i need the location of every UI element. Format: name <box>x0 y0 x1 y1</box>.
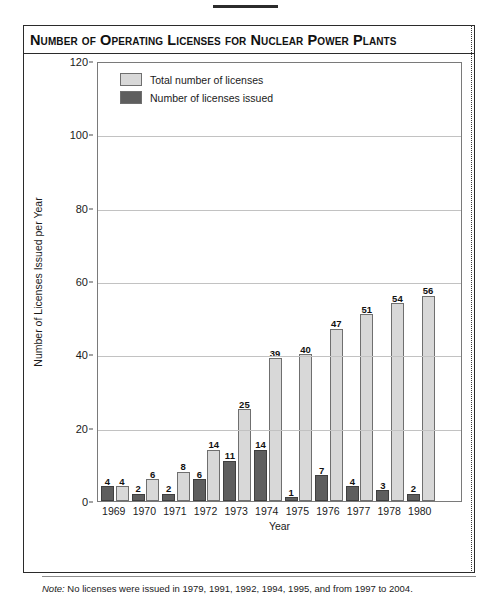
bar-issued: 6 <box>193 479 206 501</box>
legend-swatch-issued <box>120 91 142 104</box>
bar-issued: 3 <box>376 490 389 501</box>
x-axis-tick: 1971 <box>163 505 186 517</box>
gridline <box>98 356 461 357</box>
x-axis-tick: 1980 <box>408 505 431 517</box>
bar-group: 747 <box>315 63 346 501</box>
bar-issued: 11 <box>223 461 236 501</box>
legend-label-total: Total number of licenses <box>150 74 263 86</box>
bar-value-label: 8 <box>181 462 186 472</box>
legend-label-issued: Number of licenses issued <box>150 92 273 104</box>
bar-issued: 4 <box>101 486 114 501</box>
y-axis-tick-mark <box>89 428 93 429</box>
y-axis-tick: 60 <box>76 276 88 288</box>
x-axis-tick: 1974 <box>255 505 278 517</box>
x-axis-tick: 1976 <box>316 505 339 517</box>
chart-legend: Total number of licenses Number of licen… <box>120 73 273 109</box>
bar-issued: 1 <box>285 497 298 501</box>
x-axis-tick: 1973 <box>224 505 247 517</box>
title-band: Number of Operating Licenses for Nuclear… <box>24 26 474 54</box>
bar-group: 256 <box>407 63 438 501</box>
bar-total: 4 <box>116 486 129 501</box>
bar-value-label: 14 <box>209 440 220 450</box>
x-axis-tick-labels: 1969197019711972197319741975197619771978… <box>97 503 462 519</box>
y-axis-tick: 40 <box>76 349 88 361</box>
bar-value-label: 51 <box>362 305 373 315</box>
bar-value-label: 2 <box>411 484 416 494</box>
bar-value-label: 11 <box>225 451 235 461</box>
y-axis-tick: 0 <box>82 496 88 508</box>
bar-value-label: 25 <box>239 400 250 410</box>
bars-layer: 44262861411251439140747451354256 <box>98 63 461 501</box>
bar-value-label: 56 <box>423 286 434 296</box>
bar-total: 47 <box>330 329 343 501</box>
bar-value-label: 40 <box>300 345 311 355</box>
x-axis-tick: 1969 <box>102 505 125 517</box>
gridline <box>98 283 461 284</box>
bar-value-label: 4 <box>105 477 110 487</box>
footnote: Note: No licenses were issued in 1979, 1… <box>42 583 476 595</box>
bar-issued: 2 <box>407 494 420 501</box>
y-axis-title-text: Number of Licenses Issued per Year <box>32 197 44 366</box>
bar-group: 451 <box>346 63 377 501</box>
y-axis-tick-mark <box>89 502 93 503</box>
bar-group: 354 <box>376 63 407 501</box>
y-axis-tick: 120 <box>70 56 88 68</box>
x-axis-tick: 1975 <box>286 505 309 517</box>
footnote-text: No licenses were issued in 1979, 1991, 1… <box>65 583 413 594</box>
bar-value-label: 2 <box>135 484 140 494</box>
chart-card: Number of Licenses Issued per Year 02040… <box>33 62 467 532</box>
bar-issued: 14 <box>254 450 267 501</box>
page-title: Number of Operating Licenses for Nuclear… <box>24 32 397 48</box>
y-axis-tick-mark <box>89 135 93 136</box>
scan-edge-artifact <box>471 25 472 573</box>
y-axis-tick-mark <box>89 62 93 63</box>
plot-area: 44262861411251439140747451354256 Total n… <box>97 62 462 502</box>
scan-artifact-rule <box>213 5 278 8</box>
bar-value-label: 6 <box>197 470 202 480</box>
gridline <box>98 430 461 431</box>
bar-total: 40 <box>299 354 312 501</box>
bar-issued: 2 <box>132 494 145 501</box>
bar-value-label: 1 <box>288 488 293 498</box>
y-axis-title: Number of Licenses Issued per Year <box>29 62 47 502</box>
y-axis-tick: 100 <box>70 129 88 141</box>
bar-value-label: 7 <box>319 466 324 476</box>
y-axis-tick-mark <box>89 282 93 283</box>
bar-value-label: 14 <box>255 440 266 450</box>
bar-group: 26 <box>132 63 163 501</box>
bar-total: 8 <box>177 472 190 501</box>
bar-group: 1439 <box>254 63 285 501</box>
bar-group: 614 <box>193 63 224 501</box>
bar-value-label: 54 <box>392 294 403 304</box>
figure-frame: Number of Operating Licenses for Nuclear… <box>23 25 475 573</box>
bar-value-label: 4 <box>350 477 355 487</box>
bar-total: 6 <box>146 479 159 501</box>
y-axis-tick: 20 <box>76 423 88 435</box>
y-axis-tick-labels: 020406080100120 <box>47 62 93 502</box>
x-axis-tick: 1977 <box>347 505 370 517</box>
bar-value-label: 47 <box>331 319 342 329</box>
footnote-prefix: Note: <box>42 583 65 594</box>
bar-total: 56 <box>422 296 435 501</box>
gridline <box>98 136 461 137</box>
bar-total: 51 <box>360 314 373 501</box>
bar-value-label: 4 <box>119 477 124 487</box>
gridline <box>98 210 461 211</box>
bar-issued: 4 <box>346 486 359 501</box>
y-axis-tick-mark <box>89 208 93 209</box>
y-axis-tick-mark <box>89 355 93 356</box>
bar-issued: 2 <box>162 494 175 501</box>
bar-total: 25 <box>238 409 251 501</box>
x-axis-tick: 1970 <box>133 505 156 517</box>
legend-swatch-total <box>120 73 142 86</box>
bar-issued: 7 <box>315 475 328 501</box>
legend-item-issued: Number of licenses issued <box>120 91 273 104</box>
bar-total: 14 <box>207 450 220 501</box>
bar-group: 28 <box>162 63 193 501</box>
bar-group: 140 <box>285 63 316 501</box>
x-axis-tick: 1972 <box>194 505 217 517</box>
legend-item-total: Total number of licenses <box>120 73 273 86</box>
x-axis-title: Year <box>97 520 462 532</box>
y-axis-tick: 80 <box>76 203 88 215</box>
x-axis-tick: 1978 <box>377 505 400 517</box>
